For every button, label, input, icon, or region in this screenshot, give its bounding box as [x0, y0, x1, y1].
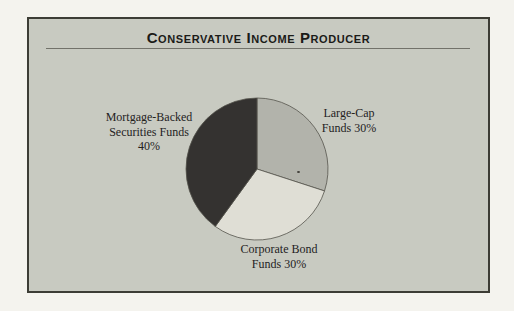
- label-large-cap-line1: Large-Cap: [289, 106, 409, 121]
- label-corporate-bond: Corporate Bond Funds 30%: [204, 242, 354, 271]
- label-large-cap: Large-Cap Funds 30%: [289, 106, 409, 135]
- label-mortgage-backed-line1: Mortgage-Backed: [74, 110, 224, 125]
- chart-title: Conservative Income Producer: [29, 29, 488, 46]
- label-mortgage-backed-line2: Securities Funds: [74, 125, 224, 140]
- scan-speck-artifact: [297, 171, 300, 173]
- label-mortgage-backed: Mortgage-Backed Securities Funds 40%: [74, 110, 224, 154]
- title-divider-rule: [46, 48, 470, 49]
- page: { "panel": { "title": "Conservative Inco…: [0, 0, 514, 311]
- label-corporate-bond-line2: Funds 30%: [204, 257, 354, 272]
- label-mortgage-backed-line3: 40%: [74, 139, 224, 154]
- label-corporate-bond-line1: Corporate Bond: [204, 242, 354, 257]
- chart-panel: Conservative Income Producer Mortgage-Ba…: [27, 17, 490, 293]
- label-large-cap-line2: Funds 30%: [289, 121, 409, 136]
